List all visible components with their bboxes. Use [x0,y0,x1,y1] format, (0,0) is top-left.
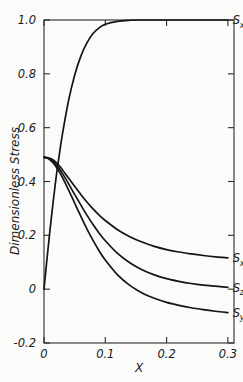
x-tick-label: 0.1 [96,347,114,361]
x-tick-label: 0.3 [219,347,237,361]
y-tick-label: 0.8 [18,67,36,81]
curve-label-subscript: xx [239,259,243,268]
y-tick-label: 0 [29,282,36,296]
curve-label-subscript: xy [239,21,243,30]
x-tick-label: 0.2 [157,347,175,361]
curve-label-subscript: zz [239,288,243,297]
y-axis-title: Dimensionless Stress [8,127,22,255]
y-tick-label: 1.0 [18,13,36,27]
curve-label-subscript: yy [239,313,243,322]
chart-plot-area: 1.00.80.60.40.20-0.2 00.10.20.3 SxySxxSz… [0,0,243,382]
x-axis-title: X [134,361,144,375]
chart-background [0,0,243,382]
y-tick-label: -0.2 [14,336,36,350]
chart-figure: 1.00.80.60.40.20-0.2 00.10.20.3 SxySxxSz… [0,0,243,382]
x-tick-label: 0 [40,347,47,361]
